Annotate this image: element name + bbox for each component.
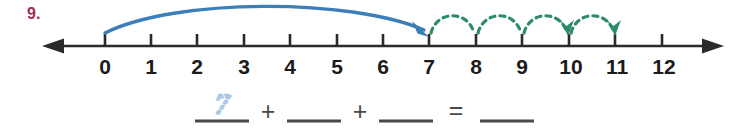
tick-label-0: 0 [99,55,111,78]
axis-right-arrow-icon [702,39,724,54]
tick-label-10: 10 [559,55,582,78]
tick-label-8: 8 [470,55,482,78]
green-arrowhead-icon-11 [607,20,621,36]
equals-sign: = [449,96,464,124]
plus-sign-1: + [261,97,276,125]
number-line-diagram: 0 1 2 3 4 5 6 7 8 9 10 11 12 [0,0,738,88]
tick-label-1: 1 [145,55,157,78]
tick-label-2: 2 [191,55,203,78]
jump-arc-0-to-7 [105,6,429,37]
axis-left-arrow-icon [42,39,64,54]
tick-label-11: 11 [606,55,629,78]
green-arc-8-to-9 [478,16,521,33]
equation-row: 7 + + = [0,88,738,135]
tick-label-3: 3 [238,55,250,78]
green-arc-9-to-10 [524,16,567,33]
worksheet-problem: 9. 0 1 2 3 4 [0,0,738,135]
green-arrowheads [560,20,621,36]
tick-labels: 0 1 2 3 4 5 6 7 8 9 10 11 12 [99,55,676,78]
green-arc-7-to-8 [431,16,474,33]
tick-label-5: 5 [331,55,343,78]
jump-arcs-7-to-11 [431,16,614,33]
tick-label-7: 7 [423,55,435,78]
tick-marks [105,34,662,46]
equation-diagram: 7 + + = [0,88,738,135]
tick-label-9: 9 [516,55,528,78]
green-arc-10-to-11 [571,16,614,33]
tick-label-4: 4 [284,55,296,78]
blue-arc-path [105,6,424,33]
tick-label-12: 12 [652,55,675,78]
plus-sign-2: + [353,97,368,125]
traced-answer-7[interactable]: 7 [215,88,232,120]
tick-label-6: 6 [377,55,389,78]
